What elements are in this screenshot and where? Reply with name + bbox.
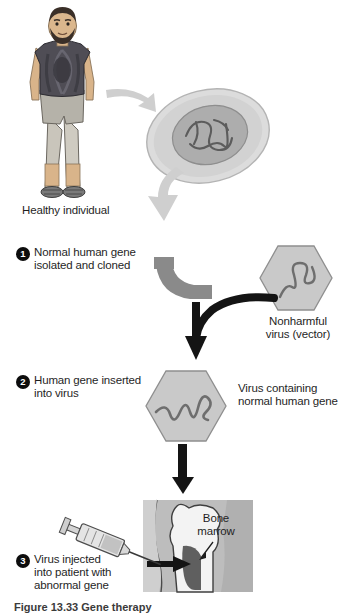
healthy-individual-label: Healthy individual [22,204,142,217]
arrow-virus-to-insertion-icon [160,288,280,366]
gene-therapy-figure: Healthy individual [0,0,351,615]
step-3-label: Virus injected into patient with abnorma… [34,553,111,593]
step-1-label: Normal human gene isolated and cloned [34,246,136,272]
figure-caption: Figure 13.33 Gene therapy [14,601,152,613]
bone-marrow-label: Bone marrow [186,512,246,538]
step-1-badge: 1 [16,247,30,261]
virus-containing-gene-label: Virus containing normal human gene [238,382,350,408]
step-3-badge: 3 [16,554,30,568]
step-2-label: Human gene inserted into virus [34,374,141,400]
arrow-person-to-cell-icon [104,84,164,124]
step-2-badge: 2 [16,375,30,389]
step-3: 3 Virus injected into patient with abnor… [16,553,146,593]
virus-with-gene-hexagon [144,368,228,444]
arrow-cell-down-icon [146,165,202,227]
arrow-to-injection-icon [170,444,196,496]
